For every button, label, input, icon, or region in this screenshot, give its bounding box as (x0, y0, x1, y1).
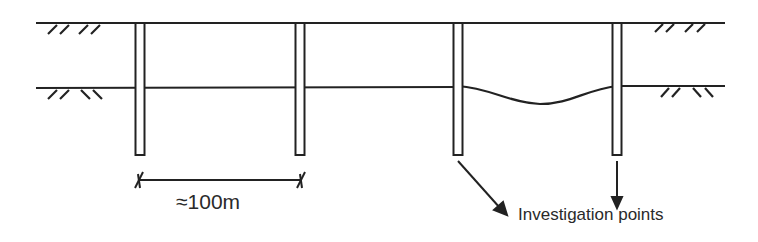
dimension-line (135, 172, 305, 188)
investigation-points-label: Investigation points (518, 205, 664, 225)
ground-hatch-icon (48, 90, 102, 99)
arrow-line-diagonal (458, 161, 500, 208)
layer-boundary-line (36, 87, 458, 88)
investigation-pile-1 (136, 23, 145, 155)
investigation-pile-4 (613, 23, 622, 155)
layer-dip-curve (458, 86, 617, 104)
ground-hatch-icon (661, 88, 713, 97)
investigation-pile-3 (454, 23, 463, 155)
investigation-pile-2 (296, 23, 305, 155)
ground-hatch-icon (655, 24, 705, 32)
spacing-label: ≈100m (176, 190, 240, 214)
ground-hatch-icon (48, 25, 100, 34)
